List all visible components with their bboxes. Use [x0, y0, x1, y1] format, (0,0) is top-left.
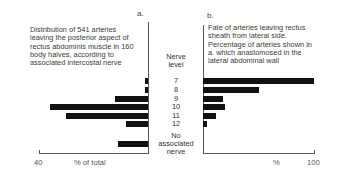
- right-chart-horizontal-axis: [203, 153, 315, 154]
- right-axis-tick-100: [314, 150, 315, 154]
- label-line: nerve: [151, 148, 201, 156]
- no-associated-nerve-label: No associated nerve: [151, 132, 201, 156]
- right-bar: [203, 121, 207, 127]
- panel-b-description: Fate of arteries leaving rectus sheath f…: [208, 24, 312, 65]
- left-chart-vertical-axis: [148, 22, 149, 153]
- left-bar: [118, 141, 148, 147]
- left-axis-title: % of total: [74, 158, 106, 167]
- left-chart-horizontal-axis: [39, 153, 149, 154]
- left-bar: [145, 87, 148, 93]
- nerve-level-title: Nerve level: [156, 53, 196, 69]
- panel-a-letter: a.: [137, 9, 144, 18]
- right-bar: [203, 113, 216, 119]
- desc-line: lateral abdominal wall: [208, 57, 312, 65]
- left-bar: [50, 104, 148, 110]
- left-bar: [126, 121, 148, 127]
- nerve-label-12: 12: [156, 120, 196, 128]
- left-bar: [145, 78, 148, 84]
- panel-a-description: Distribution of 541 arteries leaving the…: [30, 26, 134, 67]
- right-bar: [203, 104, 225, 110]
- desc-line: associated intercostal nerve: [30, 59, 134, 67]
- right-bar: [203, 87, 259, 93]
- left-axis-min-label: 40: [34, 158, 42, 167]
- panel-b-letter: b.: [207, 11, 214, 20]
- nerve-label-7: 7: [156, 77, 196, 85]
- right-bar: [203, 96, 223, 102]
- nerve-label-10: 10: [156, 103, 196, 111]
- left-axis-tick-40: [39, 150, 40, 154]
- title-line: level: [156, 61, 196, 69]
- right-bar: [203, 78, 314, 84]
- right-axis-title: %: [273, 158, 280, 167]
- left-bar: [115, 96, 148, 102]
- left-bar: [66, 113, 148, 119]
- right-axis-max-label: 100: [307, 158, 320, 167]
- nerve-label-8: 8: [156, 86, 196, 94]
